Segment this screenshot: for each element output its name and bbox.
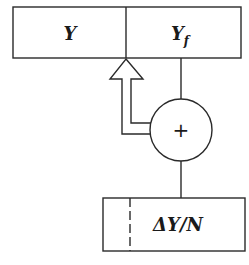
- cell-y-label: Y: [64, 23, 79, 44]
- adder: +: [150, 99, 212, 161]
- delta-y-over-n-label: ΔY/N: [152, 214, 204, 235]
- block-diagram: Y Yf + ΔY/N: [0, 0, 249, 265]
- plus-icon: +: [173, 118, 190, 142]
- bottom-register: ΔY/N: [103, 198, 245, 251]
- top-register: Y Yf: [13, 7, 241, 58]
- hollow-arrow-icon: [110, 59, 151, 134]
- cell-yf-label: Yf: [171, 23, 191, 48]
- top-register-frame: [13, 7, 241, 58]
